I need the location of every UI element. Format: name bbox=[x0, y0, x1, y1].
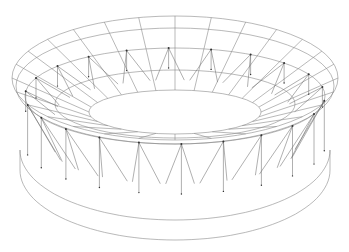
support-node bbox=[88, 56, 90, 58]
support-cable bbox=[99, 138, 127, 182]
support-node bbox=[35, 77, 37, 79]
support-foot-node bbox=[99, 187, 100, 188]
support-foot-node bbox=[25, 111, 26, 112]
support-foot-node bbox=[65, 178, 66, 179]
support-node bbox=[27, 104, 29, 106]
support-node bbox=[138, 142, 140, 144]
support-node bbox=[323, 100, 325, 102]
support-node bbox=[210, 48, 212, 50]
support-foot-node bbox=[57, 85, 58, 86]
roof-rib bbox=[261, 78, 338, 112]
support-cable bbox=[139, 143, 160, 184]
support-node bbox=[57, 65, 59, 67]
support-cable bbox=[223, 55, 251, 83]
support-cable bbox=[275, 74, 309, 95]
support-node bbox=[40, 117, 42, 119]
support-node bbox=[180, 143, 182, 145]
support-foot-node bbox=[41, 167, 42, 168]
roof-opening bbox=[89, 90, 261, 134]
support-node bbox=[98, 137, 100, 139]
support-cable bbox=[255, 135, 261, 175]
support-cable bbox=[292, 101, 324, 158]
support-cable bbox=[169, 48, 185, 80]
support-cable bbox=[259, 126, 292, 174]
support-foot-node bbox=[250, 74, 251, 75]
roof-rib bbox=[242, 117, 302, 126]
roof-rib bbox=[104, 22, 137, 92]
support-cable bbox=[277, 126, 292, 168]
support-cable bbox=[232, 135, 262, 180]
roof-rib bbox=[242, 39, 302, 98]
support-cable bbox=[132, 143, 139, 182]
support-node bbox=[168, 47, 170, 49]
roof-rib bbox=[212, 132, 245, 134]
support-node bbox=[292, 125, 294, 127]
support-foot-node bbox=[27, 154, 28, 155]
support-foot-node bbox=[283, 82, 284, 83]
roof-rib bbox=[73, 30, 121, 95]
support-node bbox=[321, 86, 323, 88]
support-foot-node bbox=[210, 69, 211, 70]
support-cable bbox=[41, 118, 62, 162]
support-cable bbox=[223, 141, 227, 180]
support-node bbox=[65, 128, 67, 130]
support-foot-node bbox=[322, 106, 323, 107]
support-cable bbox=[58, 66, 91, 90]
support-foot-node bbox=[35, 97, 36, 98]
support-foot-node bbox=[324, 150, 325, 151]
support-foot-node bbox=[223, 191, 224, 192]
stadium-wireframe-diagram bbox=[0, 0, 349, 252]
support-foot-node bbox=[168, 67, 169, 68]
support-foot-node bbox=[88, 76, 89, 77]
support-node bbox=[260, 134, 262, 136]
support-foot-node bbox=[138, 192, 139, 193]
roof-rib bbox=[48, 117, 108, 126]
support-node bbox=[25, 90, 27, 92]
support-node bbox=[222, 140, 224, 142]
support-foot-node bbox=[126, 70, 127, 71]
support-node bbox=[313, 113, 315, 115]
support-node bbox=[283, 62, 285, 64]
support-cable bbox=[200, 141, 224, 183]
base-bottom-edge bbox=[20, 170, 330, 240]
roof-rib bbox=[48, 39, 108, 98]
roof-rib bbox=[104, 132, 137, 134]
support-foot-node bbox=[261, 185, 262, 186]
support-foot-node bbox=[181, 193, 182, 194]
support-cable bbox=[248, 55, 251, 87]
support-cable bbox=[280, 114, 314, 166]
support-foot-node bbox=[313, 163, 314, 164]
support-cable bbox=[211, 49, 218, 82]
support-node bbox=[126, 50, 128, 52]
support-cable bbox=[190, 49, 211, 80]
support-node bbox=[308, 73, 310, 75]
support-cable bbox=[156, 48, 169, 80]
support-foot-node bbox=[292, 175, 293, 176]
support-cable bbox=[166, 144, 182, 184]
support-node bbox=[250, 54, 252, 56]
support-cable bbox=[99, 138, 102, 178]
support-cable bbox=[181, 144, 194, 184]
support-cable bbox=[288, 74, 309, 102]
support-cable bbox=[123, 51, 127, 84]
stadium-ring-drawing bbox=[0, 0, 349, 252]
roof-rib bbox=[229, 30, 277, 95]
